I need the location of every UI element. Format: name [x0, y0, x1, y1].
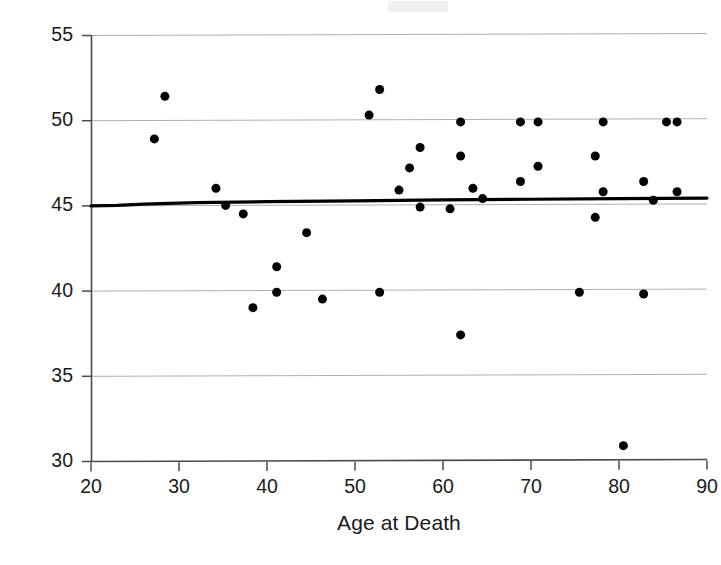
data-points [150, 85, 682, 450]
data-point [591, 213, 600, 222]
data-point [395, 186, 404, 195]
data-point [468, 184, 477, 193]
data-point [673, 117, 682, 126]
data-point [221, 201, 230, 210]
data-point [405, 163, 414, 172]
data-point [599, 117, 608, 126]
data-point [375, 85, 384, 94]
data-point [416, 143, 425, 152]
data-point [599, 187, 608, 196]
data-point [239, 209, 248, 218]
x-axis-line [91, 460, 707, 462]
data-point [365, 111, 374, 120]
data-point [160, 92, 169, 101]
data-point [516, 177, 525, 186]
data-point [456, 151, 465, 160]
tick-marks [82, 36, 707, 472]
data-point [575, 288, 584, 297]
data-point [456, 117, 465, 126]
data-point [446, 204, 455, 213]
data-point [150, 134, 159, 143]
x-axis-title: Age at Death [91, 511, 707, 535]
data-point [375, 288, 384, 297]
data-point [416, 203, 425, 212]
data-point [619, 441, 628, 450]
data-point [534, 117, 543, 126]
data-point [534, 162, 543, 171]
gridline [91, 289, 707, 291]
plot-area [0, 0, 721, 565]
data-point [673, 187, 682, 196]
data-point [639, 177, 648, 186]
data-point [478, 194, 487, 203]
data-point [649, 196, 658, 205]
data-point [302, 228, 311, 237]
data-point [456, 330, 465, 339]
data-point [639, 290, 648, 299]
gridline [91, 119, 707, 121]
data-point [516, 117, 525, 126]
data-point [248, 303, 257, 312]
gridline [91, 374, 707, 376]
gridline [91, 34, 707, 36]
gridlines [91, 34, 707, 377]
data-point [662, 117, 671, 126]
data-point [591, 151, 600, 160]
axis-lines [91, 35, 707, 462]
data-point [272, 288, 281, 297]
data-point [318, 295, 327, 304]
data-point [272, 262, 281, 271]
scatter-plot-figure: Age By Cranial Suture Closure 3035404550… [0, 0, 721, 565]
data-point [211, 184, 220, 193]
